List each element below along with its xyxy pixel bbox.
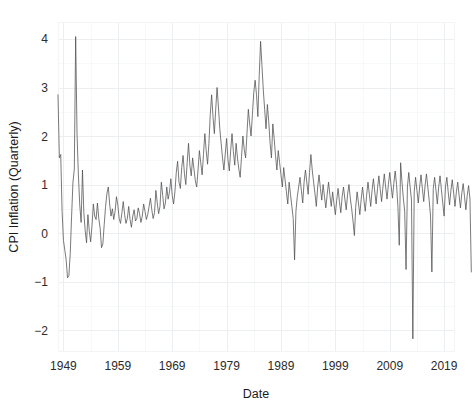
x-tick-label: 1959	[104, 359, 131, 373]
plot-panel-background	[58, 22, 455, 352]
x-tick-label: 1989	[268, 359, 295, 373]
x-tick-label: 1999	[322, 359, 349, 373]
x-tick-label: 2019	[431, 359, 458, 373]
y-tick-label: 4	[41, 32, 48, 46]
y-tick-label: 1	[41, 178, 48, 192]
x-axis-title: Date	[243, 387, 269, 401]
y-tick-label: 3	[41, 81, 48, 95]
y-tick-label: 0	[41, 227, 48, 241]
x-tick-label: 1969	[159, 359, 186, 373]
x-tick-label: 1979	[213, 359, 240, 373]
x-tick-label: 1949	[50, 359, 77, 373]
y-tick-label: −1	[34, 275, 48, 289]
y-tick-label: 2	[41, 130, 48, 144]
chart-canvas: −2−101234 194919591969197919891999200920…	[0, 0, 476, 408]
cpi-inflation-chart: −2−101234 194919591969197919891999200920…	[0, 0, 476, 408]
y-tick-label: −2	[34, 324, 48, 338]
x-tick-label: 2009	[376, 359, 403, 373]
y-axis-title: CPI Inflation (Quarterly)	[7, 121, 21, 252]
